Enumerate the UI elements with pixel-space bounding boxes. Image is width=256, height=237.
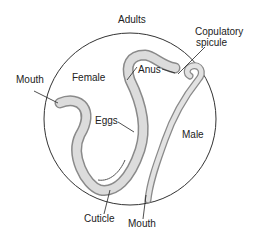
label-anus: Anus [138,64,161,75]
label-male: Male [182,129,204,140]
label-cuticle: Cuticle [84,213,115,224]
label-copulatory: Copulatory [195,26,243,37]
label-mouth-male: Mouth [128,218,156,229]
worm-anatomy-diagram: Adults Copulatory spicule Anus Mouth Fem… [0,0,256,237]
label-female: Female [72,72,105,83]
label-spicule: spicule [196,37,227,48]
label-mouth-female: Mouth [16,74,44,85]
label-eggs: Eggs [95,115,118,126]
label-adults: Adults [118,14,146,25]
